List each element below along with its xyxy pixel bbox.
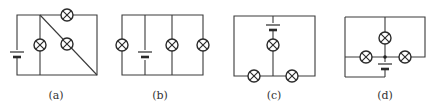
lamp-icon [61, 9, 73, 21]
lamp-icon [34, 39, 46, 51]
label-c: (c) [254, 89, 294, 102]
lamp-icon [248, 70, 260, 82]
lamp-icon [360, 51, 372, 63]
lamp-icon [116, 39, 128, 51]
circuit-d [345, 17, 425, 77]
circuit-b [116, 15, 209, 75]
label-d: (d) [365, 89, 405, 102]
label-a: (a) [36, 89, 76, 102]
lamp-icon [267, 39, 279, 51]
lamp-icon [61, 38, 73, 50]
label-b: (b) [140, 89, 180, 102]
lamp-icon [197, 39, 209, 51]
lamp-icon [286, 70, 298, 82]
lamp-icon [399, 51, 411, 63]
circuit-a [10, 9, 97, 75]
lamp-icon [379, 32, 391, 44]
circuit-c [234, 16, 315, 82]
lamp-icon [166, 39, 178, 51]
